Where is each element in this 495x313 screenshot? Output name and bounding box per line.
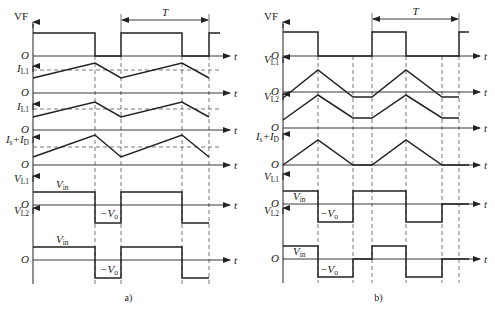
period-label: T: [162, 6, 169, 18]
waveform-row: tOVL1: [264, 53, 488, 98]
origin-label: O: [271, 252, 279, 264]
time-axis-label: t: [484, 50, 488, 62]
waveform-trace: [33, 247, 209, 278]
panel-a: TtOVFtOIL1tOIL1tOIs+IDtOVL1Vin−VotOVL2Vi…: [5, 6, 238, 304]
time-axis-label: t: [234, 50, 238, 62]
waveform-trace: [283, 140, 469, 165]
waveform-row: tOIL1: [16, 62, 238, 99]
waveform-figure: TtOVFtOIL1tOIL1tOIs+IDtOVL1Vin−VotOVL2Vi…: [0, 0, 495, 313]
time-axis-label: t: [234, 254, 238, 266]
waveform-trace: [33, 192, 209, 223]
vin-level-label: Vin: [56, 233, 69, 247]
period-label: T: [412, 5, 419, 17]
row-label: Is+ID: [5, 133, 30, 147]
panel-caption: a): [125, 292, 133, 304]
waveform-trace: [33, 33, 220, 56]
waveform-row: tOIL1: [16, 100, 238, 136]
time-axis-label: t: [484, 86, 488, 98]
row-label: VF: [14, 10, 28, 22]
panel-b: TtOVFtOVL1tOVL2tOIs+IDtOVL1Vin−VotOVL2Vi…: [255, 5, 488, 304]
waveform-row: tOVL1Vin−Vo: [264, 170, 488, 222]
origin-label: O: [271, 158, 279, 170]
time-axis-label: t: [234, 159, 238, 171]
waveform-row: tOIs+ID: [255, 130, 488, 171]
vin-level-label: Vin: [293, 190, 306, 204]
time-axis-label: t: [484, 198, 488, 210]
row-label: IL1: [16, 62, 29, 76]
panel-caption: b): [374, 292, 382, 304]
time-axis-label: t: [484, 159, 488, 171]
waveform-row: tOVL1Vin−Vo: [14, 172, 238, 223]
vo-level-label: −Vo: [100, 207, 118, 221]
waveform-row: tOVF: [14, 10, 238, 62]
waveform-row: tOVL2Vin−Vo: [264, 204, 488, 277]
vin-level-label: Vin: [293, 245, 306, 259]
time-axis-label: t: [234, 199, 238, 211]
row-label: IL1: [16, 100, 29, 114]
time-axis-label: t: [234, 87, 238, 99]
vo-level-label: −Vo: [320, 263, 338, 277]
origin-label: O: [21, 253, 29, 265]
waveform-trace: [283, 246, 469, 277]
time-axis-label: t: [484, 122, 488, 134]
row-label: VL1: [14, 172, 29, 186]
origin-label: O: [271, 197, 279, 209]
time-axis-label: t: [484, 253, 488, 265]
origin-label: O: [21, 86, 29, 98]
waveform-trace: [283, 70, 459, 98]
row-label: VL1: [264, 170, 279, 184]
waveform-trace: [283, 32, 469, 56]
origin-label: O: [21, 49, 29, 61]
waveform-row: tOVL2Vin−Vo: [14, 204, 238, 278]
vo-level-label: −Vo: [320, 207, 338, 221]
waveform-trace: [33, 135, 209, 157]
time-axis-label: t: [234, 124, 238, 136]
waveform-row: tOIs+ID: [5, 133, 238, 171]
row-label: VF: [264, 10, 278, 22]
waveform-row: tOVF: [264, 10, 488, 62]
origin-label: O: [21, 158, 29, 170]
vo-level-label: −Vo: [100, 263, 118, 277]
waveform-trace: [283, 95, 459, 120]
vin-level-label: Vin: [56, 178, 69, 192]
waveform-trace: [283, 191, 469, 222]
